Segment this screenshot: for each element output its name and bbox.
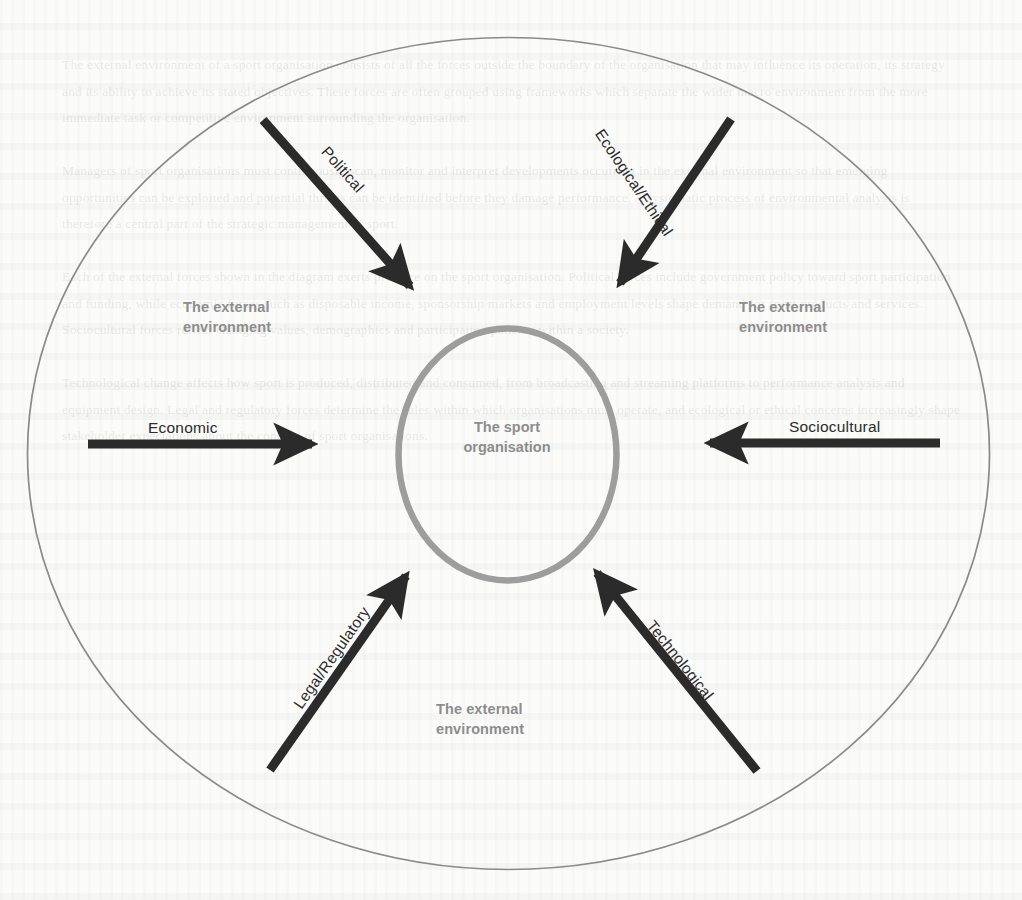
env-label-tl-line1: The external xyxy=(183,299,270,315)
diagram-canvas: The external environment of a sport orga… xyxy=(0,0,1022,900)
env-label-tl-line2: environment xyxy=(183,319,271,335)
force-label-economic: Economic xyxy=(148,419,218,437)
legal-regulatory-arrow xyxy=(270,576,406,770)
external-environment-label-bottom: The external environment xyxy=(436,699,524,739)
external-environment-label-top-right: The external environment xyxy=(739,297,827,337)
env-label-tr-line1: The external xyxy=(739,299,826,315)
political-arrow xyxy=(263,120,410,286)
sport-organisation-label: The sport organisation xyxy=(407,417,607,457)
external-environment-label-top-left: The external environment xyxy=(183,297,271,337)
force-label-sociocultural: Sociocultural xyxy=(789,418,880,436)
env-label-b-line1: The external xyxy=(436,701,523,717)
sport-organisation-label-line1: The sport xyxy=(474,419,540,435)
env-label-tr-line2: environment xyxy=(739,319,827,335)
env-label-b-line2: environment xyxy=(436,721,524,737)
sport-organisation-label-line2: organisation xyxy=(463,439,550,455)
